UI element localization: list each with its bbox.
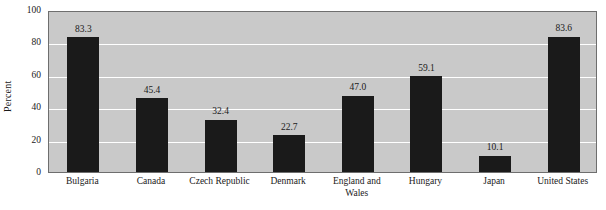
x-axis-category-label: Japan [460,176,529,188]
x-axis-category-label: England and Wales [323,176,392,199]
bar-group: 83.6 [529,12,597,172]
y-axis-tick-label: 60 [32,71,42,81]
bar-group: 45.4 [118,12,187,172]
y-axis-tick-labels: 020406080100 [18,11,44,173]
x-axis-category-label: United States [528,176,597,188]
bar-value-label: 32.4 [212,107,229,117]
bar-value-label: 45.4 [144,86,161,96]
bar-group: 83.3 [49,12,118,172]
bar-group: 22.7 [255,12,324,172]
bar-value-label: 83.3 [75,25,92,35]
x-axis-category-labels: BulgariaCanadaCzech RepublicDenmarkEngla… [48,176,597,210]
bar-value-label: 83.6 [555,24,572,34]
x-axis-category-label: Hungary [391,176,460,188]
bar[interactable] [548,37,580,172]
bar-group: 32.4 [186,12,255,172]
bar[interactable] [205,120,237,172]
x-axis-category-label: Bulgaria [48,176,117,188]
y-axis-tick-label: 100 [27,6,41,16]
bar[interactable] [273,135,305,172]
bar-value-label: 10.1 [487,143,504,153]
y-axis-tick-label: 80 [32,39,42,49]
y-axis-tick-label: 40 [32,103,42,113]
bars-layer: 83.345.432.422.747.059.110.183.6 [49,12,596,172]
bar-value-label: 47.0 [350,83,367,93]
bar-chart: Percent 020406080100 83.345.432.422.747.… [0,0,606,210]
bar-group: 59.1 [392,12,461,172]
bar[interactable] [136,98,168,172]
x-axis-category-label: Czech Republic [185,176,254,188]
bar[interactable] [479,156,511,172]
bar[interactable] [410,76,442,172]
bar-value-label: 59.1 [418,64,435,74]
bar[interactable] [67,37,99,172]
bar[interactable] [342,96,374,172]
plot-area: 83.345.432.422.747.059.110.183.6 [48,11,597,173]
bar-group: 47.0 [324,12,393,172]
x-axis-category-label: Denmark [254,176,323,188]
y-axis-title: Percent [2,56,18,136]
bar-group: 10.1 [461,12,530,172]
y-axis-tick-label: 20 [32,136,42,146]
bar-value-label: 22.7 [281,123,298,133]
x-axis-category-label: Canada [117,176,186,188]
y-axis-tick-label: 0 [36,168,41,178]
